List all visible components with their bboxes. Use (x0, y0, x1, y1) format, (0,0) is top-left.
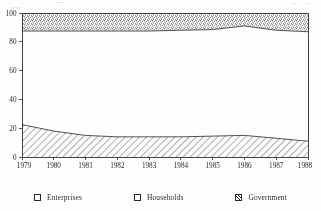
x-tick-label: 1983 (142, 162, 157, 170)
y-tick-label: 0 (13, 154, 17, 162)
y-tick-label: 100 (6, 10, 17, 18)
x-tick-label: 1986 (237, 162, 252, 170)
legend-item-government[interactable]: Government (235, 193, 286, 202)
legend-label: Enterprises (47, 193, 82, 202)
blank-swatch-icon (134, 194, 141, 201)
legend-item-households[interactable]: Households (134, 193, 183, 202)
legend-label: Government (248, 193, 286, 202)
x-tick-label: 1981 (78, 162, 93, 170)
y-tick-label: 40 (9, 96, 17, 104)
y-tick-label: 60 (9, 67, 17, 75)
y-axis-labels: 100 80 60 40 20 0 (6, 10, 17, 162)
x-tick-label: 1987 (269, 162, 284, 170)
y-tick-label: 20 (9, 125, 17, 133)
y-axis-ticks (19, 13, 22, 157)
x-tick-label: 1982 (110, 162, 125, 170)
legend-label: Households (147, 193, 183, 202)
x-tick-label: 1980 (47, 162, 62, 170)
x-tick-label: 1988 (298, 162, 313, 170)
x-tick-label: 1979 (17, 162, 32, 170)
hatch-swatch-icon (235, 194, 242, 201)
x-axis-ticks (22, 157, 308, 160)
y-tick-label: 80 (9, 38, 17, 46)
x-axis-labels: 1979 1980 1981 1982 1983 1984 1985 1986 … (17, 162, 313, 170)
series-area-households (22, 26, 308, 141)
x-tick-label: 1984 (174, 162, 189, 170)
x-tick-label: 1985 (205, 162, 220, 170)
stacked-area-plot: 100 80 60 40 20 0 1979 1980 1981 1982 (0, 0, 321, 188)
chart-container: 100 80 60 40 20 0 1979 1980 1981 1982 (0, 0, 321, 211)
chart-legend: Enterprises Households Government (0, 188, 321, 206)
stipple-swatch-icon (34, 194, 41, 201)
legend-item-enterprises[interactable]: Enterprises (34, 193, 82, 202)
